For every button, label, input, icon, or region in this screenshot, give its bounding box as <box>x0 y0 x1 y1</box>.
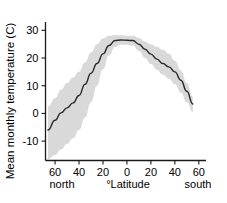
y-tick-label: 30 <box>26 24 38 36</box>
x-tick-label: 20 <box>145 166 157 178</box>
x-tick-label: 0 <box>124 166 130 178</box>
x-tick-label: 60 <box>49 166 61 178</box>
latitude-temperature-chart: -100102030 6040200204060 Mean monthly te… <box>0 0 227 203</box>
y-tick-label: 0 <box>32 107 38 119</box>
x-tick-label: 40 <box>73 166 85 178</box>
x-tick-label: 40 <box>169 166 181 178</box>
y-tick-label: 10 <box>26 80 38 92</box>
north-annotation: north <box>49 178 74 190</box>
x-axis-title: °Latitude <box>106 178 150 190</box>
x-tick-label: 60 <box>193 166 205 178</box>
y-axis-title: Mean monthly temperature (C) <box>4 23 16 180</box>
south-annotation: south <box>185 178 212 190</box>
x-tick-label: 20 <box>97 166 109 178</box>
y-tick-label: -10 <box>23 135 39 147</box>
y-tick-label: 20 <box>26 52 38 64</box>
chart-figure: -100102030 6040200204060 Mean monthly te… <box>0 0 227 203</box>
